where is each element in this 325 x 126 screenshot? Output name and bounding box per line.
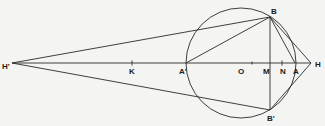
label-h-prime: H': [2, 62, 10, 71]
label-b-prime: B': [267, 114, 275, 123]
diagram-svg: H' K A' O M N A H B B': [0, 0, 325, 126]
segment-h-prime-b: [12, 17, 270, 63]
label-h: H: [315, 60, 321, 69]
label-o: O: [238, 67, 244, 76]
label-m: M: [263, 67, 270, 76]
segment-h-prime-b-prime: [12, 63, 270, 110]
geometry-diagram: H' K A' O M N A H B B': [0, 0, 325, 126]
segment-b-h: [270, 17, 311, 63]
label-b: B: [271, 7, 277, 16]
segment-a-prime-b: [186, 17, 270, 63]
label-a-prime: A': [179, 67, 187, 76]
segment-b-prime-h: [270, 63, 311, 110]
label-a: A: [293, 67, 299, 76]
label-n: N: [280, 67, 286, 76]
label-k: K: [129, 67, 135, 76]
